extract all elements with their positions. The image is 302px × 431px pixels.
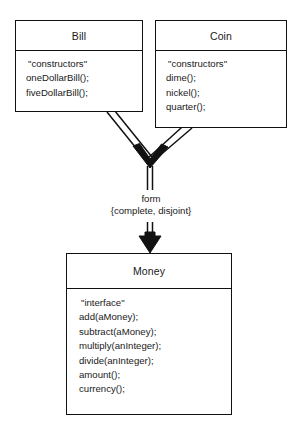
class-member: subtract(aMoney); — [79, 325, 231, 339]
class-member: quarter(); — [166, 100, 286, 114]
class-member: "constructors" — [26, 57, 142, 71]
relationship-constraint-label: {complete, disjoint} — [0, 205, 302, 217]
arrowhead-bill — [133, 144, 152, 169]
arrowhead-money — [139, 232, 161, 253]
class-title-coin: Coin — [156, 21, 286, 51]
class-box-coin[interactable]: Coin "constructors" dime(); nickel(); qu… — [155, 20, 287, 128]
generalization-shaft-lower — [148, 222, 153, 239]
class-members-bill: "constructors" oneDollarBill(); fiveDoll… — [16, 51, 142, 111]
generalization-edge-coin — [148, 123, 192, 161]
class-member: nickel(); — [166, 86, 286, 100]
generalization-shaft-upper — [148, 166, 153, 190]
class-box-money[interactable]: Money "interface" add(aMoney); subtract(… — [66, 253, 232, 415]
class-member: fiveDollarBill(); — [26, 86, 142, 100]
class-member: oneDollarBill(); — [26, 71, 142, 85]
class-member: amount(); — [79, 368, 231, 382]
class-member: divide(anInteger); — [79, 354, 231, 368]
diagram-canvas: Bill "constructors" oneDollarBill(); fiv… — [0, 0, 302, 431]
class-title-bill: Bill — [16, 21, 142, 51]
class-member: multiply(anInteger); — [79, 339, 231, 353]
class-member: add(aMoney); — [79, 310, 231, 324]
class-member: "constructors" — [166, 57, 286, 71]
class-members-money: "interface" add(aMoney); subtract(aMoney… — [67, 289, 231, 414]
relationship-role-label: form — [0, 193, 302, 205]
class-title-money: Money — [67, 254, 231, 289]
class-members-coin: "constructors" dime(); nickel(); quarter… — [156, 51, 286, 127]
class-member: "interface" — [79, 296, 231, 310]
class-member: currency(); — [79, 382, 231, 396]
class-box-bill[interactable]: Bill "constructors" oneDollarBill(); fiv… — [15, 20, 143, 112]
generalization-edge-bill — [107, 108, 152, 161]
class-member: dime(); — [166, 71, 286, 85]
arrowhead-coin — [149, 144, 169, 168]
